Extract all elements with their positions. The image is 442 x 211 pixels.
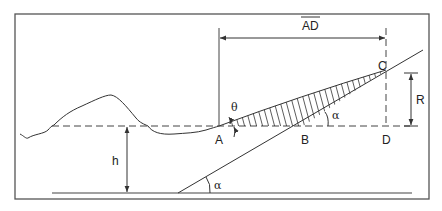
theta-arc-arrow-lower xyxy=(234,127,235,137)
terrain-profile xyxy=(20,95,219,138)
point-D-label: D xyxy=(382,133,391,147)
alpha-arc-bottom xyxy=(206,177,210,193)
alpha-label-bottom: α xyxy=(214,179,222,192)
hatched-area xyxy=(215,60,397,135)
point-B-label: B xyxy=(301,133,309,147)
point-A-label: A xyxy=(215,133,223,147)
theta-arc-arrow-upper xyxy=(229,117,230,124)
frame xyxy=(15,14,429,199)
alpha-label-top: α xyxy=(332,109,340,122)
h-label: h xyxy=(112,154,119,168)
theta-label: θ xyxy=(231,101,238,114)
alpha-arc-top xyxy=(325,112,328,126)
AD-label: AD xyxy=(302,19,319,33)
slope-diagram: AD R h θ α α A B C D xyxy=(0,0,442,211)
point-C-label: C xyxy=(378,59,387,73)
R-label: R xyxy=(416,93,425,107)
